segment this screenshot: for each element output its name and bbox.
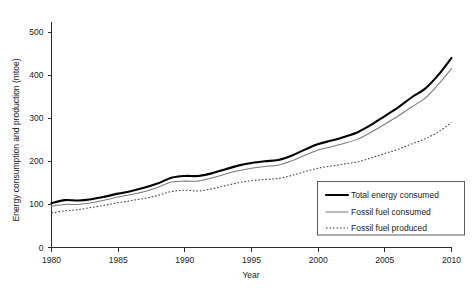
line-chart: Energy consumption and production (mtoe)…: [0, 0, 476, 291]
y-tick-label: 300: [29, 113, 43, 123]
y-tick-label: 500: [29, 27, 43, 37]
chart-container: Energy consumption and production (mtoe)…: [0, 0, 476, 291]
x-tick-label: 1990: [175, 255, 194, 265]
x-tick-label: 1985: [109, 255, 128, 265]
x-tick-label: 2000: [309, 255, 328, 265]
y-axis-title: Energy consumption and production (mtoe): [11, 58, 21, 221]
x-tick-label: 1980: [42, 255, 61, 265]
y-axis-ticks: 0100200300400500: [29, 27, 51, 253]
y-tick-label: 0: [39, 243, 44, 253]
y-tick-label: 400: [29, 70, 43, 80]
y-tick-label: 200: [29, 156, 43, 166]
chart-legend: Total energy consumed Fossil fuel consum…: [318, 182, 465, 236]
x-axis-title: Year: [242, 270, 259, 280]
y-tick-label: 100: [29, 199, 43, 209]
x-tick-label: 2005: [375, 255, 394, 265]
legend-label-total-energy-consumed: Total energy consumed: [351, 190, 439, 200]
legend-label-fossil-fuel-produced: Fossil fuel produced: [351, 223, 427, 233]
x-tick-label: 1995: [242, 255, 261, 265]
legend-label-fossil-fuel-consumed: Fossil fuel consumed: [351, 207, 431, 217]
x-tick-label: 2010: [442, 255, 461, 265]
x-axis-ticks: 1980198519901995200020052010: [42, 248, 461, 265]
